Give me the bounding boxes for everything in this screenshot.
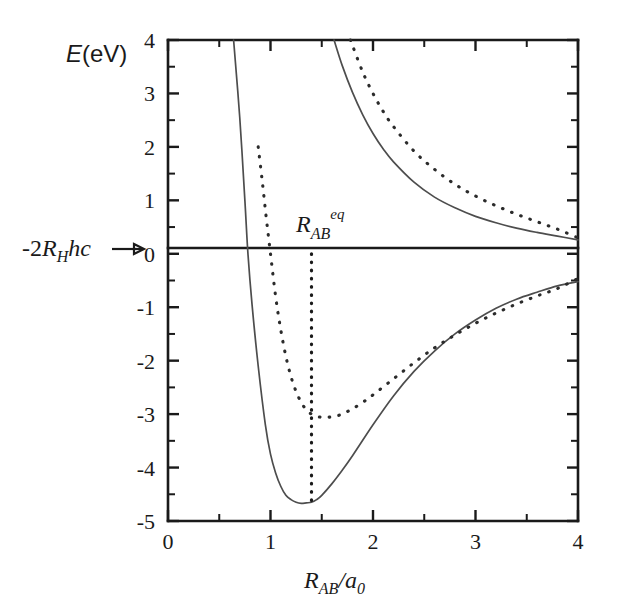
y-tick-label: 4 (144, 28, 155, 53)
curve-bonding-approx-dashed (258, 147, 578, 418)
x-axis-label-sub-ab: AB (318, 580, 339, 597)
x-axis-label-a: a (345, 567, 357, 593)
x-axis-label-sub-zero: 0 (357, 580, 365, 597)
axis-lines (168, 40, 578, 521)
curve-antibonding-approx-dashed (350, 40, 578, 238)
chart-figure: 01234-5-4-3-2-101234 E(eV) RAB/a0 -2RHhc… (0, 0, 618, 613)
y-tick-label: 2 (144, 135, 155, 160)
zero-reference-arrow-icon (112, 244, 144, 254)
y-tick-label: 1 (144, 188, 155, 213)
curve-bonding-exact-solid (234, 40, 578, 503)
y-tick-label: 0 (144, 242, 155, 267)
tick-labels-group: 01234-5-4-3-2-101234 (137, 28, 584, 554)
x-axis-label-r: R (303, 567, 319, 593)
zero-ref-r: R (41, 235, 57, 261)
eq-annotation-sup-eq: eq (330, 206, 345, 222)
x-tick-label: 0 (163, 529, 174, 554)
curves-group (234, 40, 578, 503)
x-tick-label: 4 (573, 529, 584, 554)
zero-ref-hc: hc (68, 235, 91, 261)
zero-ref-prefix: -2 (22, 235, 42, 261)
curve-antibonding-exact-solid (334, 40, 578, 240)
tick-marks-group (168, 40, 578, 521)
y-tick-label: -4 (137, 456, 155, 481)
y-tick-label: 3 (144, 81, 155, 106)
zero-reference-annotation: -2RHhc (22, 235, 91, 265)
potential-energy-plot: 01234-5-4-3-2-101234 E(eV) RAB/a0 -2RHhc… (0, 0, 618, 613)
y-axis-label-italic-e: E (66, 40, 83, 67)
y-tick-label: -3 (137, 402, 155, 427)
x-axis-label: RAB/a0 (303, 567, 365, 597)
y-axis-label: E(eV) (66, 40, 127, 67)
equilibrium-annotation: RABeq (295, 206, 345, 242)
eq-annotation-sub-ab: AB (310, 225, 331, 242)
eq-annotation-r: R (295, 211, 311, 237)
y-tick-label: -2 (137, 349, 155, 374)
y-tick-label: -1 (137, 295, 155, 320)
y-axis-label-units: (eV) (82, 40, 127, 67)
x-tick-label: 2 (368, 529, 379, 554)
x-tick-label: 3 (470, 529, 481, 554)
x-tick-label: 1 (265, 529, 276, 554)
y-tick-label: -5 (137, 509, 155, 534)
